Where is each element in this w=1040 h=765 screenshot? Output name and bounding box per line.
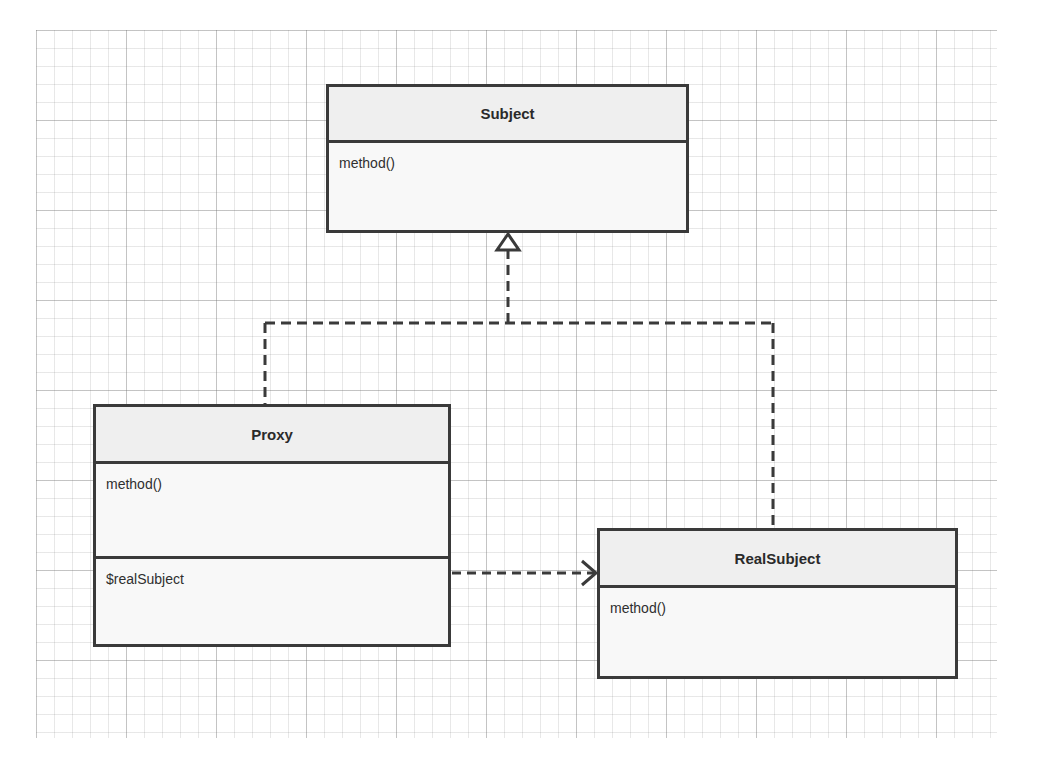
method-item: method() xyxy=(610,600,945,616)
class-proxy[interactable]: Proxy method() $realSubject xyxy=(93,404,451,647)
method-item: method() xyxy=(106,476,438,492)
attribute-item: $realSubject xyxy=(106,571,438,587)
class-subject-methods: method() xyxy=(329,143,686,230)
method-item: method() xyxy=(339,155,676,171)
class-realsubject-header: RealSubject xyxy=(600,531,955,588)
class-proxy-name: Proxy xyxy=(251,426,293,443)
class-subject-header: Subject xyxy=(329,87,686,143)
class-realsubject[interactable]: RealSubject method() xyxy=(597,528,958,679)
class-subject-name: Subject xyxy=(480,105,534,122)
class-realsubject-methods: method() xyxy=(600,588,955,676)
class-realsubject-name: RealSubject xyxy=(735,550,821,567)
class-proxy-attributes: $realSubject xyxy=(96,556,448,644)
class-proxy-methods: method() xyxy=(96,464,448,556)
class-subject[interactable]: Subject method() xyxy=(326,84,689,233)
class-proxy-header: Proxy xyxy=(96,407,448,464)
